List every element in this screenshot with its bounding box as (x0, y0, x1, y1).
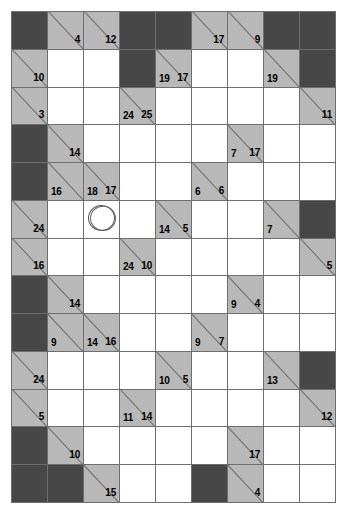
open-cell-r1-c5[interactable] (192, 50, 227, 87)
blocked-cell-r1-c8 (300, 50, 335, 87)
open-cell-r3-c4[interactable] (156, 125, 191, 162)
down-sum: 24 (123, 262, 134, 272)
across-sum: 6 (219, 186, 224, 196)
open-cell-r4-c8[interactable] (300, 163, 335, 200)
open-cell-r2-c2[interactable] (84, 88, 119, 125)
open-cell-r2-c5[interactable] (192, 88, 227, 125)
down-sum: 11 (123, 413, 133, 423)
open-cell-r10-c7[interactable] (264, 390, 299, 427)
blocked-cell-r0-c0 (12, 12, 47, 49)
open-cell-r11-c8[interactable] (300, 427, 335, 464)
blocked-cell-r8-c0 (12, 314, 47, 351)
open-cell-r3-c5[interactable] (192, 125, 227, 162)
open-cell-r3-c3[interactable] (120, 125, 155, 162)
across-sum: 12 (105, 35, 116, 45)
open-cell-r5-c1[interactable] (48, 201, 83, 238)
open-cell-r9-c2[interactable] (84, 352, 119, 389)
down-sum: 6 (195, 187, 200, 197)
open-cell-r1-c1[interactable] (48, 50, 83, 87)
open-cell-r7-c2[interactable] (84, 276, 119, 313)
open-cell-r10-c4[interactable] (156, 390, 191, 427)
blocked-cell-r5-c8 (300, 201, 335, 238)
open-cell-r6-c5[interactable] (192, 239, 227, 276)
open-cell-r8-c7[interactable] (264, 314, 299, 351)
open-cell-r6-c6[interactable] (228, 239, 263, 276)
clue-cell-across-r5-c0: 24 (12, 201, 47, 238)
kakuro-grid[interactable]: 4121791017191932524111417716171866245147… (11, 11, 336, 503)
down-sum: 18 (87, 187, 98, 197)
open-cell-r2-c6[interactable] (228, 88, 263, 125)
open-cell-r6-c4[interactable] (156, 239, 191, 276)
open-cell-r2-c7[interactable] (264, 88, 299, 125)
blocked-cell-r12-c5 (192, 465, 227, 502)
open-cell-r7-c5[interactable] (192, 276, 227, 313)
down-sum: 14 (159, 225, 170, 235)
open-cell-r12-c4[interactable] (156, 465, 191, 502)
open-cell-r7-c7[interactable] (264, 276, 299, 313)
open-cell-r9-c3[interactable] (120, 352, 155, 389)
open-cell-r12-c3[interactable] (120, 465, 155, 502)
open-cell-r6-c7[interactable] (264, 239, 299, 276)
across-sum: 11 (322, 110, 332, 120)
open-cell-r5-c5[interactable] (192, 201, 227, 238)
open-cell-r9-c6[interactable] (228, 352, 263, 389)
open-cell-r8-c3[interactable] (120, 314, 155, 351)
open-cell-r4-c7[interactable] (264, 163, 299, 200)
open-cell-r11-c4[interactable] (156, 427, 191, 464)
across-sum: 16 (33, 261, 44, 271)
open-cell-r3-c7[interactable] (264, 125, 299, 162)
open-cell-r6-c2[interactable] (84, 239, 119, 276)
open-cell-r2-c1[interactable] (48, 88, 83, 125)
across-sum: 25 (141, 110, 152, 120)
clue-cell-across-down-r9-c4: 510 (156, 352, 191, 389)
blocked-cell-r4-c0 (12, 163, 47, 200)
open-cell-r8-c8[interactable] (300, 314, 335, 351)
open-cell-r2-c4[interactable] (156, 88, 191, 125)
down-sum: 7 (231, 149, 236, 159)
open-cell-r5-c6[interactable] (228, 201, 263, 238)
across-sum: 5 (183, 224, 188, 234)
open-cell-r10-c1[interactable] (48, 390, 83, 427)
open-cell-r8-c6[interactable] (228, 314, 263, 351)
open-cell-r7-c4[interactable] (156, 276, 191, 313)
clue-cell-across-r10-c8: 12 (300, 390, 335, 427)
open-cell-r8-c4[interactable] (156, 314, 191, 351)
clue-cell-across-r11-c1: 10 (48, 427, 83, 464)
clue-cell-across-r10-c0: 5 (12, 390, 47, 427)
open-cell-r12-c7[interactable] (264, 465, 299, 502)
clue-cell-across-r1-c0: 10 (12, 50, 47, 87)
open-cell-r9-c5[interactable] (192, 352, 227, 389)
across-sum: 10 (141, 261, 152, 271)
open-cell-r5-c3[interactable] (120, 201, 155, 238)
open-cell-r10-c5[interactable] (192, 390, 227, 427)
open-cell-r12-c8[interactable] (300, 465, 335, 502)
clue-cell-across-down-r8-c5: 79 (192, 314, 227, 351)
open-cell-r5-c2[interactable] (84, 201, 119, 238)
clue-cell-across-r3-c1: 14 (48, 125, 83, 162)
clue-cell-across-r11-c6: 17 (228, 427, 263, 464)
open-cell-r11-c7[interactable] (264, 427, 299, 464)
blocked-cell-r3-c0 (12, 125, 47, 162)
open-cell-r1-c6[interactable] (228, 50, 263, 87)
open-cell-r11-c2[interactable] (84, 427, 119, 464)
clue-cell-down-r5-c7: 7 (264, 201, 299, 238)
open-cell-r4-c4[interactable] (156, 163, 191, 200)
open-cell-r4-c3[interactable] (120, 163, 155, 200)
open-cell-r9-c1[interactable] (48, 352, 83, 389)
open-cell-r7-c8[interactable] (300, 276, 335, 313)
open-cell-r7-c3[interactable] (120, 276, 155, 313)
clue-cell-across-down-r10-c3: 1411 (120, 390, 155, 427)
open-cell-r3-c8[interactable] (300, 125, 335, 162)
open-cell-r4-c6[interactable] (228, 163, 263, 200)
blocked-cell-r0-c8 (300, 12, 335, 49)
open-cell-r11-c5[interactable] (192, 427, 227, 464)
open-cell-r6-c1[interactable] (48, 239, 83, 276)
open-cell-r10-c6[interactable] (228, 390, 263, 427)
clue-cell-down-r8-c1: 9 (48, 314, 83, 351)
down-sum: 10 (159, 376, 170, 386)
down-sum: 16 (51, 187, 62, 197)
open-cell-r10-c2[interactable] (84, 390, 119, 427)
open-cell-r1-c2[interactable] (84, 50, 119, 87)
open-cell-r3-c2[interactable] (84, 125, 119, 162)
open-cell-r11-c3[interactable] (120, 427, 155, 464)
